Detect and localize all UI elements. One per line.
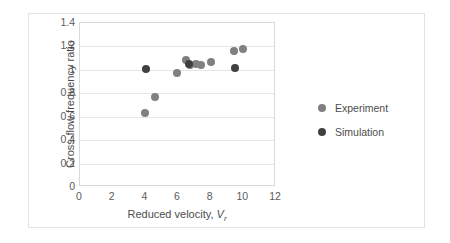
- data-point-experiment: [239, 45, 247, 53]
- legend-item-simulation: Simulation: [318, 120, 418, 144]
- y-axis-title: Cross-flow frequency ratio: [64, 4, 76, 204]
- gridline: [80, 93, 274, 94]
- legend-item-label: Simulation: [335, 126, 384, 138]
- x-tick-label: 12: [260, 191, 290, 202]
- legend-item-label: Experiment: [335, 102, 388, 114]
- data-point-simulation: [231, 64, 239, 72]
- chart-legend: ExperimentSimulation: [318, 96, 418, 144]
- x-axis-title-symbol: V: [217, 208, 224, 220]
- data-point-experiment: [151, 93, 159, 101]
- gridline: [80, 164, 274, 165]
- gridline: [80, 117, 274, 118]
- x-tick-label: 8: [195, 191, 225, 202]
- x-axis-title-subscript: r: [224, 214, 227, 223]
- x-tick-label: 2: [97, 191, 127, 202]
- data-point-experiment: [173, 69, 181, 77]
- plot-area: [79, 22, 275, 186]
- data-point-experiment: [230, 47, 238, 55]
- legend-marker-icon: [318, 104, 326, 112]
- gridline: [80, 140, 274, 141]
- x-axis-title-text: Reduced velocity,: [127, 208, 216, 220]
- x-tick-label: 4: [129, 191, 159, 202]
- data-point-simulation: [142, 65, 150, 73]
- data-point-simulation: [185, 60, 193, 68]
- legend-marker-icon: [318, 128, 326, 136]
- data-point-experiment: [207, 58, 215, 66]
- legend-item-experiment: Experiment: [318, 96, 418, 120]
- x-axis-title: Reduced velocity, Vr: [79, 208, 275, 223]
- x-tick-label: 10: [227, 191, 257, 202]
- data-point-experiment: [197, 61, 205, 69]
- x-tick-label: 6: [162, 191, 192, 202]
